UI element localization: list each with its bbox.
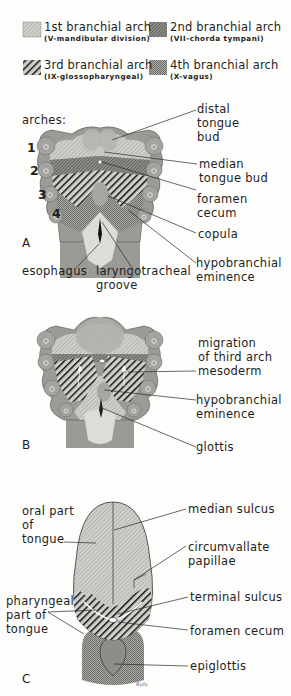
legend-arch2-nerve: (VII-chorda tympani): [170, 34, 264, 43]
legend-arch4-nerve: (X-vagus): [170, 72, 213, 81]
artist-signature: Rufu: [136, 681, 148, 687]
laryngeal-lumen: [84, 409, 116, 444]
label-median-sulcus: median sulcus: [188, 502, 275, 516]
label-oral-part-of-tongue: oral part of tongue: [22, 504, 74, 546]
panel-label-a: A: [22, 236, 30, 250]
label-hypobranchial-eminence-b: hypobranchial eminence: [196, 393, 282, 421]
legend-arch3-nerve: (IX-glossopharyngeal): [44, 72, 144, 81]
arch-number-4: 4: [52, 206, 61, 221]
legend-arch1-nerve: (V-mandibular division): [44, 34, 150, 43]
label-laryngotracheal-groove: laryngotracheal groove: [96, 264, 191, 292]
panel-label-b: B: [22, 438, 30, 452]
legend-swatch-arch2: [149, 22, 167, 37]
label-foramen-cecum-c: foramen cecum: [190, 624, 284, 638]
label-distal-tongue-bud: distal tongue bud: [197, 102, 239, 144]
foramen-cecum: [109, 618, 117, 623]
label-circumvallate-papillae: circumvallate papillae: [188, 540, 270, 568]
legend-arch2-title: 2nd branchial arch: [170, 21, 281, 34]
panel-b-drawing: [37, 317, 196, 448]
label-epiglottis: epiglottis: [190, 659, 246, 673]
foramen-cecum: [99, 359, 105, 363]
label-glottis: glottis: [196, 440, 234, 454]
arch-number-1: 1: [27, 140, 36, 155]
median-tongue-bud: [96, 146, 104, 156]
arches-heading: arches:: [22, 113, 66, 127]
label-foramen-cecum-a: foramen cecum: [197, 192, 248, 220]
panel-label-c: C: [22, 672, 30, 686]
label-migration-third-arch: migration of third arch mesoderm: [198, 336, 272, 378]
label-hypobranchial-eminence-a: hypobranchial eminence: [196, 256, 282, 284]
label-median-tongue-bud: median tongue bud: [199, 157, 268, 185]
arch-number-3: 3: [38, 187, 47, 202]
label-terminal-sulcus: terminal sulcus: [190, 590, 282, 604]
label-esophagus: esophagus: [22, 264, 87, 278]
legend-arch1-title: 1st branchial arch: [44, 21, 151, 34]
legend-swatch-arch3: [23, 60, 41, 75]
foramen-cecum-dot: [98, 160, 102, 164]
tongue-swelling: [76, 318, 124, 354]
hypobranchial-eminence: [97, 382, 111, 402]
label-copula: copula: [198, 227, 238, 241]
legend-swatch-arch1: [23, 22, 41, 37]
legend-arch4-title: 4th branchial arch: [170, 59, 279, 72]
arch-number-2: 2: [30, 163, 39, 178]
panel-a-drawing: [37, 110, 197, 278]
legend-arch3-title: 3rd branchial arch: [44, 59, 153, 72]
copula: [92, 182, 108, 206]
label-pharyngeal-part-of-tongue: pharyngeal part of tongue: [6, 594, 74, 636]
